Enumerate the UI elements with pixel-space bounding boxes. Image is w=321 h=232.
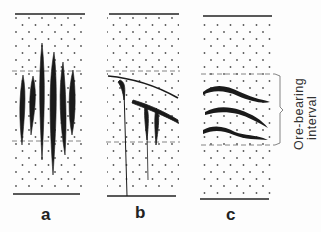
diagram-graphic [0, 0, 321, 232]
panel-label-b: b [135, 203, 145, 223]
panel-label-a: a [41, 205, 50, 225]
panel-c [200, 16, 283, 199]
ore-interval-diagram: a b c Ore-bearing interval [0, 0, 321, 232]
annotation-line2: interval [306, 78, 319, 150]
panel-label-c: c [226, 205, 235, 225]
panel-a [12, 14, 85, 194]
panel-b [106, 14, 180, 196]
ore-bearing-interval-label: Ore-bearing interval [293, 78, 319, 150]
